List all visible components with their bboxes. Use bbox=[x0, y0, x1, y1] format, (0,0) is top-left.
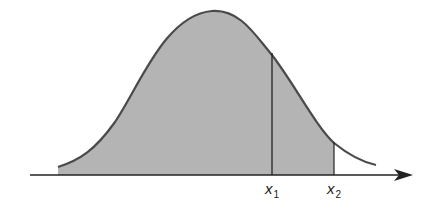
shaded-area bbox=[58, 11, 334, 175]
x1-label: x1 bbox=[264, 180, 280, 200]
x2-label: x2 bbox=[326, 180, 342, 200]
normal-curve-diagram: x1 x2 bbox=[0, 0, 432, 210]
